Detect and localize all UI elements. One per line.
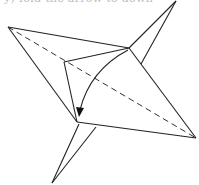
origami-diagram xyxy=(0,0,199,185)
bottom-flap xyxy=(52,124,96,183)
top-flap xyxy=(129,1,176,64)
fold-arrow xyxy=(76,50,128,117)
arrowhead-icon xyxy=(76,107,84,117)
